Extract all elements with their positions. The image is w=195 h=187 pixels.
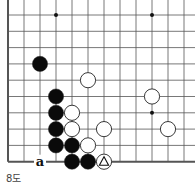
black-stone (48, 89, 63, 104)
white-stone (64, 122, 79, 137)
black-stone (48, 122, 63, 137)
white-stone (80, 138, 95, 153)
white-stone (80, 73, 95, 88)
white-stone (96, 122, 111, 137)
black-stone (80, 154, 95, 169)
star-point (54, 13, 58, 17)
diagram-caption: 8도 (6, 170, 21, 185)
black-stone (48, 138, 63, 153)
black-stone (32, 56, 47, 71)
star-point (150, 13, 154, 17)
black-stone (64, 154, 79, 169)
point-label: a (36, 154, 45, 169)
white-stone (144, 89, 159, 104)
black-stone (64, 138, 79, 153)
black-stone (48, 105, 63, 120)
star-point (150, 111, 154, 115)
go-board: a (0, 0, 195, 170)
white-stone (160, 122, 175, 137)
white-stone (64, 105, 79, 120)
